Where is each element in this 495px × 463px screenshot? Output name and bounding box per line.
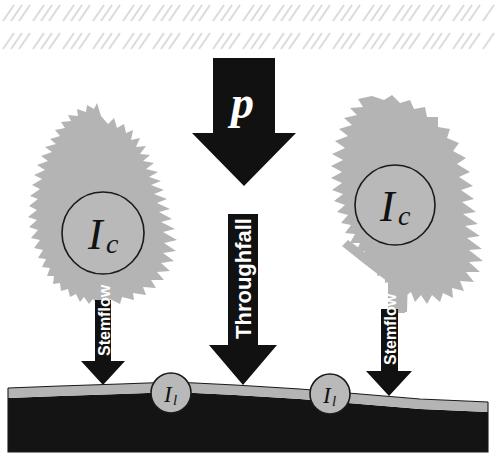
- litter-store-subscript-right: l: [332, 393, 336, 409]
- litter-store-symbol-left: I: [163, 382, 173, 407]
- canopy-store-subscript-left: c: [106, 228, 119, 259]
- canopy-store-symbol-left: I: [87, 210, 105, 259]
- canopy-store-circle-left: [62, 192, 144, 274]
- canopy-store-subscript-right: c: [398, 200, 411, 231]
- canopy-store-circle-right: [355, 165, 435, 245]
- interception-diagram: I c I c p Throughfall Stemflow: [0, 0, 495, 463]
- diagram-canvas: I c I c p Throughfall Stemflow: [0, 0, 495, 463]
- stemflow-right-label: Stemflow: [382, 293, 399, 365]
- throughfall-label: Throughfall: [231, 218, 256, 339]
- litter-store-subscript-left: l: [173, 392, 177, 408]
- canopy-store-symbol-right: I: [379, 182, 397, 231]
- precipitation-label: p: [227, 77, 254, 128]
- stemflow-left-label: Stemflow: [96, 284, 113, 356]
- litter-store-right: I l: [310, 374, 350, 414]
- litter-store-symbol-right: I: [322, 383, 332, 408]
- litter-store-left: I l: [151, 373, 191, 413]
